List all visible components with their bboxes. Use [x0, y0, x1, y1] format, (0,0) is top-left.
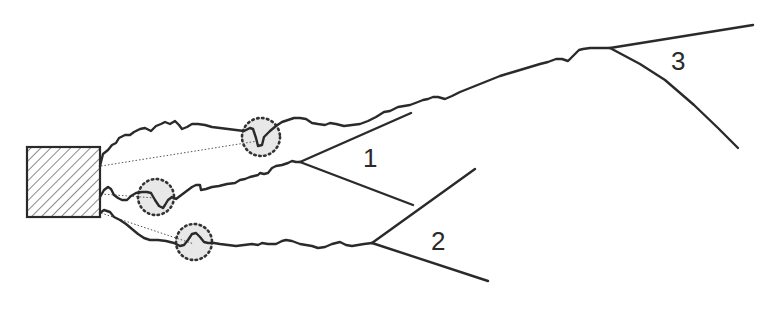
- feature-circle-upper: [242, 118, 280, 156]
- path-label-2: 2: [431, 228, 445, 254]
- crack-path-3: [100, 48, 610, 166]
- path-label-1: 1: [363, 145, 377, 171]
- fork-1-lower-branch: [300, 162, 413, 205]
- reference-line-upper: [101, 141, 258, 166]
- reference-lines: [101, 141, 258, 244]
- crack-path-1: [100, 161, 300, 208]
- fork-1-upper-branch: [300, 113, 411, 162]
- fork-2-upper-branch: [372, 169, 475, 243]
- path-label-3: 3: [671, 48, 685, 74]
- crack-path-diagram: [0, 0, 773, 309]
- fork-2-lower-branch: [372, 243, 488, 281]
- fork-3-upper-branch: [610, 25, 753, 48]
- crack-path-2: [100, 210, 372, 248]
- hatched-source-block: [27, 147, 100, 217]
